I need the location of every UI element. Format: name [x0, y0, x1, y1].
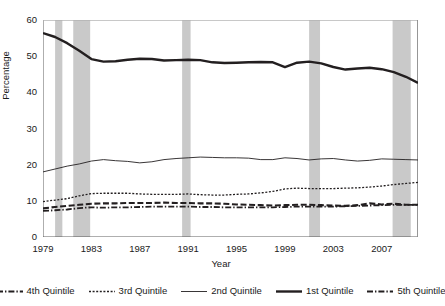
x-tick-label: 1987 — [120, 244, 160, 254]
x-tick-label: 2003 — [313, 244, 353, 254]
legend-item-3rd-quintile[interactable]: 3rd Quintile — [89, 286, 168, 296]
legend-swatch-dash-dot — [0, 287, 23, 296]
y-tick-label: 0 — [11, 232, 37, 242]
recession-band-recession-1990-91 — [182, 20, 190, 237]
legend-label: 2nd Quintile — [211, 286, 262, 296]
legend-swatch-solid-thick — [276, 287, 302, 296]
legend-swatch-dotted — [89, 287, 115, 296]
x-tick-label: 2007 — [362, 244, 402, 254]
x-tick-label: 1999 — [265, 244, 305, 254]
legend-label: 3rd Quintile — [119, 286, 168, 296]
x-tick-label: 1979 — [23, 244, 63, 254]
chart-legend: 4th Quintile3rd Quintile2nd Quintile1st … — [0, 281, 442, 301]
y-tick-label: 30 — [11, 124, 37, 134]
x-tick-label: 1995 — [217, 244, 257, 254]
y-tick-label: 60 — [11, 15, 37, 25]
series-line-3rd-quintile — [43, 182, 418, 201]
plot-svg — [43, 20, 418, 237]
y-tick-label: 10 — [11, 196, 37, 206]
data-series — [43, 33, 418, 211]
legend-label: 5th Quintile — [397, 286, 445, 296]
series-line-2nd-quintile — [43, 157, 418, 172]
y-tick-label: 50 — [11, 51, 37, 61]
legend-item-4th-quintile[interactable]: 4th Quintile — [0, 286, 75, 296]
x-axis-title: Year — [0, 258, 442, 269]
legend-item-2nd-quintile[interactable]: 2nd Quintile — [181, 286, 262, 296]
series-line-1st-quintile — [43, 33, 418, 83]
plot-area — [43, 20, 418, 237]
series-line-5th-quintile — [43, 205, 418, 211]
x-tick-label: 1983 — [71, 244, 111, 254]
legend-swatch-solid-thin — [181, 287, 207, 296]
legend-label: 1st Quintile — [306, 286, 354, 296]
legend-item-5th-quintile[interactable]: 5th Quintile — [367, 286, 445, 296]
legend-item-1st-quintile[interactable]: 1st Quintile — [276, 286, 354, 296]
y-tick-label: 40 — [11, 87, 37, 97]
x-tick-label: 1991 — [168, 244, 208, 254]
legend-swatch-dash-dot — [367, 287, 393, 296]
y-axis-title: Percentage — [0, 31, 11, 121]
recession-band-recession-1980 — [55, 20, 62, 237]
y-tick-label: 20 — [11, 160, 37, 170]
legend-label: 4th Quintile — [27, 286, 75, 296]
